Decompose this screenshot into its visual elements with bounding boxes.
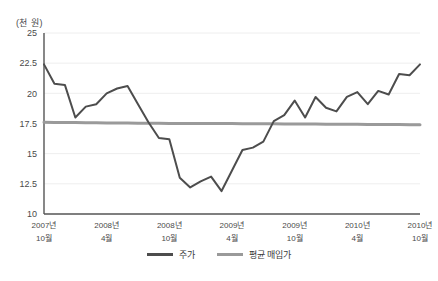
chart-legend: 주가평균 매입가 — [0, 248, 438, 261]
x-axis-tick-label: 2009년 — [282, 220, 307, 230]
series-line-price — [44, 64, 420, 191]
x-axis-tick-label: 2008년 — [157, 220, 182, 230]
legend-label: 평균 매입가 — [249, 248, 292, 261]
series-line-average-buy-price — [44, 122, 420, 124]
x-axis-tick-label: 10월 — [161, 233, 177, 243]
chart-plot-area: 2522.52017.51512.510 2007년10월2008년4월2008… — [0, 0, 438, 281]
gridlines-group — [44, 33, 420, 184]
x-axis-tick-label: 10월 — [36, 233, 52, 243]
legend-entry-price[interactable]: 주가 — [147, 248, 195, 261]
y-axis-tick-label: 22.5 — [19, 58, 37, 68]
x-axis-tick-label: 4월 — [101, 233, 112, 243]
x-axis-tick-label: 2008년 — [94, 220, 119, 230]
y-axis-tick-label: 10 — [27, 209, 37, 219]
y-axis-tick-label: 17.5 — [19, 119, 37, 129]
data-series-group — [44, 64, 420, 191]
x-axis-tick-labels: 2007년10월2008년4월2008년10월2009년4월2009년10월20… — [32, 220, 433, 243]
legend-entry-average-buy-price[interactable]: 평균 매입가 — [217, 248, 292, 261]
x-axis-tick-label: 10월 — [287, 233, 303, 243]
x-axis-tick-label: 4월 — [352, 233, 363, 243]
y-axis-tick-label: 12.5 — [19, 179, 37, 189]
y-axis-tick-label: 15 — [27, 149, 37, 159]
x-axis-tick-label: 2010년 — [408, 220, 433, 230]
y-axis-tick-labels: 2522.52017.51512.510 — [19, 28, 37, 219]
legend-label: 주가 — [179, 248, 195, 261]
y-axis-tick-label: 25 — [27, 28, 37, 38]
x-axis-tick-label: 2007년 — [32, 220, 57, 230]
legend-swatch-icon — [217, 253, 243, 256]
x-axis-tick-label: 2010년 — [345, 220, 370, 230]
stock-price-line-chart: (천 원) 2522.52017.51512.510 2007년10월2008년… — [0, 0, 438, 281]
y-axis-tick-label: 20 — [27, 89, 37, 99]
x-axis-tick-label: 10월 — [412, 233, 428, 243]
x-axis-tick-label: 4월 — [226, 233, 237, 243]
x-axis-tick-label: 2009년 — [220, 220, 245, 230]
legend-swatch-icon — [147, 253, 173, 256]
